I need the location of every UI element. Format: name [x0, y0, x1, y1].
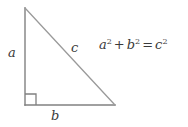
label-side-a: a	[8, 46, 16, 59]
equation-term-c-exponent: 2	[162, 37, 167, 46]
right-triangle-graphic	[0, 0, 188, 127]
equation-equals-operator: =	[140, 37, 155, 52]
pythagorean-equation: a2+b2=c2	[99, 38, 167, 51]
label-side-c: c	[71, 41, 78, 54]
label-side-b: b	[51, 109, 59, 122]
equation-term-a-base: a	[99, 37, 107, 52]
equation-plus-operator: +	[112, 37, 127, 52]
right-angle-marker-icon	[25, 94, 36, 105]
triangle-hypotenuse	[25, 8, 115, 105]
equation-term-b-base: b	[127, 37, 135, 52]
pythagorean-theorem-figure: a c b a2+b2=c2	[0, 0, 188, 127]
